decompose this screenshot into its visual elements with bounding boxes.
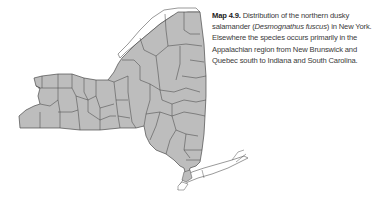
state-body	[19, 12, 206, 176]
map-caption: Map 4.9. Distribution of the northern du…	[212, 10, 372, 66]
map-label: Map 4.9.	[212, 11, 243, 20]
scientific-name: Desmognathus fuscus	[255, 22, 327, 31]
